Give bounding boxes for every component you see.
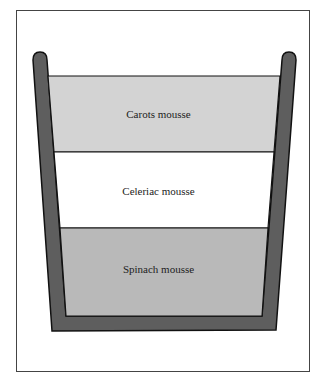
layer-label-carrot: Carots mousse (0, 108, 317, 120)
layer-label-spinach: Spinach mousse (0, 263, 317, 275)
layer-label-celeriac: Celeriac mousse (0, 185, 317, 197)
